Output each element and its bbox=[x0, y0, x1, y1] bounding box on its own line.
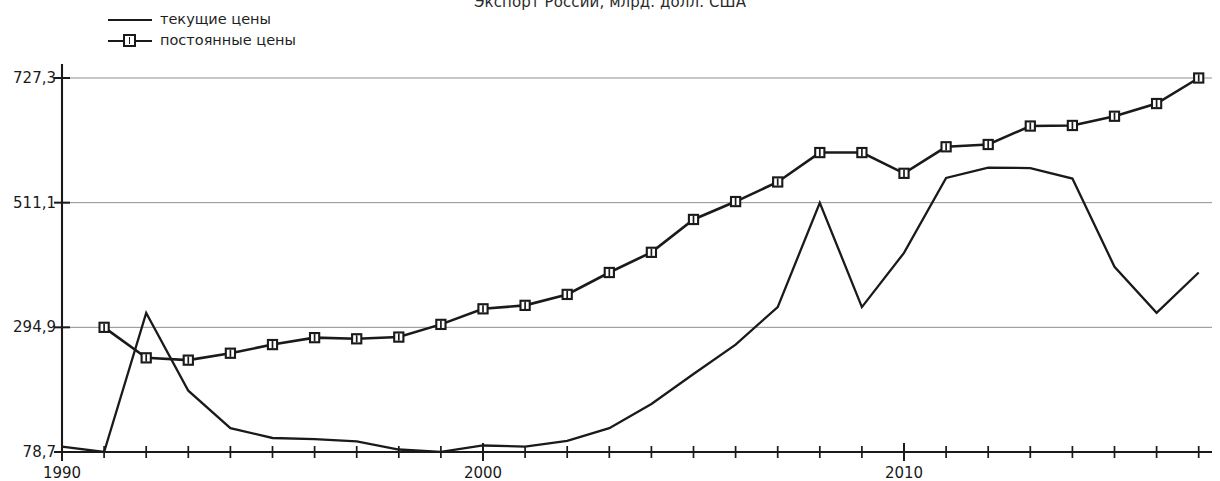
export-chart: Экспорт России, млрд. долл. США текущие … bbox=[0, 0, 1220, 481]
x-axis-label: 1990 bbox=[43, 464, 81, 481]
x-axis-label: 2000 bbox=[464, 464, 502, 481]
x-axis-label: 2010 bbox=[885, 464, 923, 481]
x-axis-labels: 199020002010 bbox=[0, 0, 1220, 481]
